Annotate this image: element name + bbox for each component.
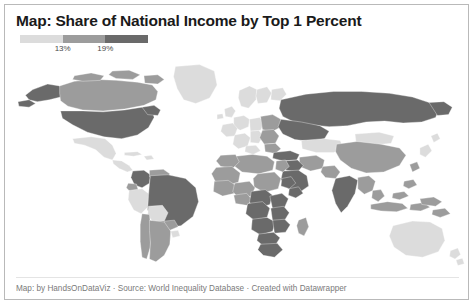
map-region[interactable] — [112, 160, 132, 172]
chart-frame: Map: Share of National Income by Top 1 P… — [4, 4, 469, 300]
map-region[interactable] — [371, 202, 408, 212]
legend-tick-19: 19% — [97, 44, 113, 53]
map-region[interactable] — [238, 86, 257, 108]
legend-color-bar — [20, 35, 148, 43]
map-region[interactable] — [144, 155, 154, 160]
map-region[interactable] — [279, 91, 439, 126]
map-region[interactable] — [73, 73, 104, 81]
footer-credit: Map: by HandsOnDataViz · Source: World I… — [16, 284, 347, 293]
map-region[interactable] — [174, 65, 218, 104]
page-title: Map: Share of National Income by Top 1 P… — [16, 12, 361, 30]
map-region[interactable] — [258, 243, 283, 257]
map-region[interactable] — [217, 114, 223, 120]
map-legend: 13% 19% — [16, 35, 206, 59]
world-choropleth-map[interactable] — [5, 57, 468, 275]
map-region[interactable] — [171, 230, 180, 237]
map-region[interactable] — [372, 190, 385, 202]
footer-divider — [16, 277, 459, 278]
map-region[interactable] — [124, 152, 142, 157]
map-region[interactable] — [260, 129, 279, 144]
map-region[interactable] — [109, 70, 140, 79]
map-region[interactable] — [449, 248, 460, 259]
map-region[interactable] — [271, 206, 290, 221]
map-region[interactable] — [273, 151, 300, 161]
map-region[interactable] — [332, 176, 358, 213]
map-region[interactable] — [61, 107, 155, 138]
map-region[interactable] — [271, 88, 287, 101]
legend-tick-13: 13% — [55, 44, 71, 53]
map-region[interactable] — [299, 155, 324, 171]
map-region[interactable] — [73, 137, 117, 160]
map-svg — [5, 57, 468, 275]
map-region[interactable] — [273, 219, 291, 233]
map-region[interactable] — [128, 189, 149, 214]
map-region[interactable] — [431, 133, 440, 142]
map-region[interactable] — [144, 75, 164, 84]
map-region[interactable] — [224, 106, 235, 117]
map-region[interactable] — [18, 100, 36, 107]
legend-swatch-mid — [63, 35, 106, 43]
map-region[interactable] — [392, 191, 409, 199]
legend-swatch-low — [20, 35, 63, 43]
map-region[interactable] — [253, 172, 281, 192]
map-region[interactable] — [456, 258, 464, 265]
legend-swatch-high — [105, 35, 148, 43]
map-region[interactable] — [245, 145, 261, 154]
map-region[interactable] — [420, 144, 432, 157]
map-region[interactable] — [297, 217, 309, 236]
map-region[interactable] — [25, 84, 65, 102]
map-region[interactable] — [432, 208, 451, 217]
map-region[interactable] — [403, 179, 417, 188]
map-region[interactable] — [389, 221, 445, 257]
map-region[interactable] — [336, 141, 406, 172]
map-region[interactable] — [149, 220, 170, 262]
map-region[interactable] — [60, 79, 158, 110]
map-region[interactable] — [256, 87, 272, 104]
map-region[interactable] — [234, 154, 275, 173]
map-region[interactable] — [270, 193, 289, 209]
map-region[interactable] — [321, 166, 340, 179]
map-region[interactable] — [410, 162, 420, 172]
